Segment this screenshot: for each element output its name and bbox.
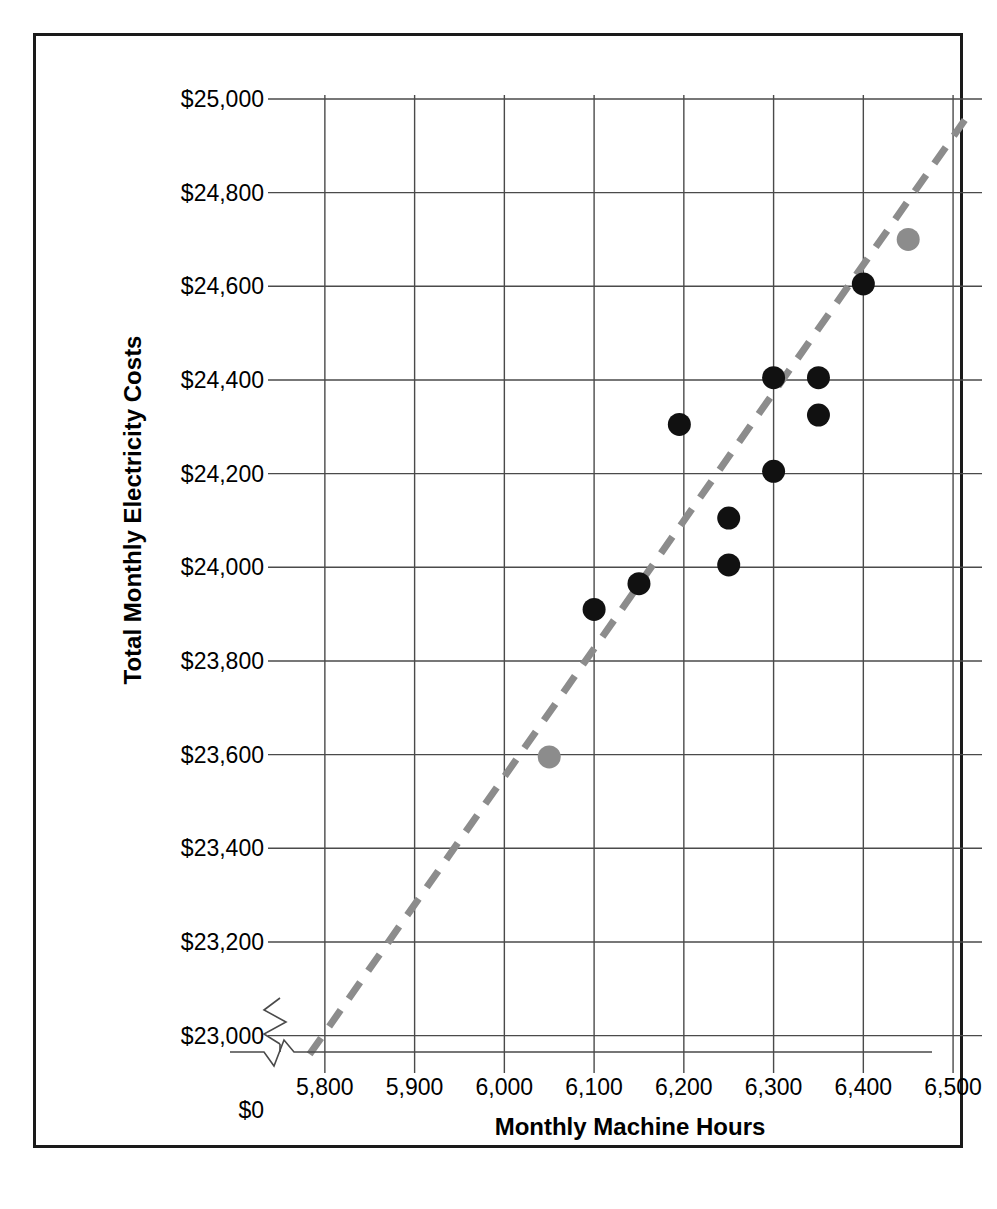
- data-point[interactable]: [717, 507, 740, 530]
- data-point[interactable]: [807, 366, 830, 389]
- data-point[interactable]: [717, 553, 740, 576]
- data-point[interactable]: [627, 572, 650, 595]
- y-axis-tick-label: $24,800: [181, 179, 264, 206]
- y-axis-title: Total Monthly Electricity Costs: [119, 230, 147, 790]
- y-axis-tick-label: $23,200: [181, 928, 264, 955]
- y-axis-tick-label: $23,600: [181, 741, 264, 768]
- y-axis-tick-label: $24,200: [181, 460, 264, 487]
- y-axis-tick-label: $23,800: [181, 647, 264, 674]
- data-point[interactable]: [897, 228, 920, 251]
- x-axis-tick-label: 6,000: [476, 1074, 534, 1101]
- x-axis-baseline-with-break: [230, 1040, 932, 1066]
- y-axis-title-wrapper: Total Monthly Electricity Costs: [96, 36, 97, 37]
- y-axis-tick-label: $24,600: [181, 273, 264, 300]
- data-point[interactable]: [807, 404, 830, 427]
- plot-area: [280, 99, 980, 1059]
- data-point[interactable]: [762, 460, 785, 483]
- x-axis-tick-label: 6,300: [745, 1074, 803, 1101]
- y-axis-tick-label: $25,000: [181, 86, 264, 113]
- x-axis-tick-label: 5,900: [386, 1074, 444, 1101]
- x-axis-title: Monthly Machine Hours: [280, 1113, 980, 1141]
- data-point[interactable]: [583, 598, 606, 621]
- data-point[interactable]: [668, 413, 691, 436]
- y-axis-tick-label: $24,400: [181, 366, 264, 393]
- figure-frame: $23,000$23,200$23,400$23,600$23,800$24,0…: [33, 33, 963, 1148]
- y-axis-tick-label: $23,400: [181, 835, 264, 862]
- data-point[interactable]: [538, 745, 561, 768]
- x-axis-tick-label: 6,400: [835, 1074, 893, 1101]
- y-axis-tick-label: $24,000: [181, 554, 264, 581]
- data-point[interactable]: [852, 272, 875, 295]
- x-axis-tick-labels: 5,8005,9006,0006,1006,2006,3006,4006,500: [280, 1074, 980, 1108]
- x-axis-tick-label: 6,100: [565, 1074, 623, 1101]
- x-axis-tick-label: 6,500: [924, 1074, 982, 1101]
- x-axis-tick-label: 5,800: [296, 1074, 354, 1101]
- chart-page: $23,000$23,200$23,400$23,600$23,800$24,0…: [0, 0, 997, 1209]
- data-point[interactable]: [762, 366, 785, 389]
- data-series-layer: [280, 99, 980, 1059]
- x-axis-tick-label: 6,200: [655, 1074, 713, 1101]
